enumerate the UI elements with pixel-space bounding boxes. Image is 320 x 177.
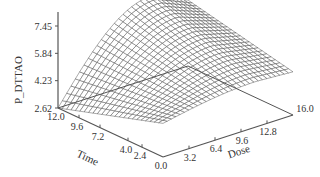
z-tick-label: 5.84 bbox=[35, 48, 53, 59]
time-tick-label: 7.2 bbox=[92, 131, 105, 142]
time-tick-label: 0.0 bbox=[155, 160, 168, 171]
time-tick-label: 9.6 bbox=[71, 121, 84, 132]
time-axis-title: Time bbox=[75, 147, 101, 168]
dose-tick-label: 3.2 bbox=[184, 152, 197, 163]
time-tick-label: 4.0 bbox=[120, 144, 133, 155]
surface-mesh bbox=[58, 0, 293, 123]
z-tick-label: 4.23 bbox=[35, 75, 53, 86]
dose-tick-label: 6.4 bbox=[210, 143, 223, 154]
z-axis-title: P_DTTAO bbox=[12, 56, 24, 104]
z-tick-label: 7.45 bbox=[35, 21, 53, 32]
dose-tick-label: 16.0 bbox=[296, 103, 314, 114]
time-tick-label: 2.4 bbox=[134, 150, 147, 161]
time-tick-label: 12.0 bbox=[47, 111, 65, 122]
surface-plot: 2.624.235.847.4512.09.67.24.02.40.03.26.… bbox=[0, 0, 320, 177]
dose-axis-title: Dose bbox=[226, 142, 251, 160]
dose-tick-label: 12.8 bbox=[259, 126, 277, 137]
